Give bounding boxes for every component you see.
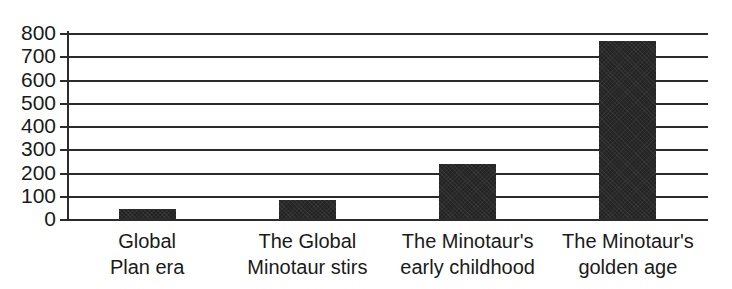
x-label-line: The Minotaur's [388,228,548,254]
gridline-800 [67,33,708,35]
x-label-line: Global [67,228,227,254]
y-tick-label-600: 600 [0,69,56,90]
y-tick-mark-300 [60,149,67,151]
y-tick-label-200: 200 [0,162,56,183]
y-tick-label-100: 100 [0,185,56,206]
x-label-line: Minotaur stirs [227,254,387,280]
x-label-line: golden age [548,254,708,280]
bar-4 [599,41,656,219]
y-tick-mark-600 [60,80,67,82]
y-tick-label-0: 0 [0,208,56,229]
y-axis-tick-labels: 8007006005004003002001000 [0,0,56,289]
bar-chart-figure: 8007006005004003002001000 GlobalPlan era… [0,0,732,289]
y-tick-label-700: 700 [0,45,56,66]
bar-1 [119,209,176,219]
y-tick-mark-100 [60,196,67,198]
x-axis-category-labels: GlobalPlan eraThe GlobalMinotaur stirsTh… [67,228,708,288]
gridline-0 [67,219,708,221]
y-tick-mark-700 [60,56,67,58]
x-label-4: The Minotaur'sgolden age [548,228,708,288]
y-tick-mark-800 [60,33,67,35]
y-tick-mark-400 [60,126,67,128]
x-label-line: Plan era [67,254,227,280]
bar-3 [439,164,496,219]
y-tick-label-500: 500 [0,92,56,113]
bar-2 [279,200,336,219]
y-tick-mark-500 [60,103,67,105]
x-label-3: The Minotaur'searly childhood [388,228,548,288]
x-label-line: The Global [227,228,387,254]
plot-area [67,33,708,219]
x-label-line: The Minotaur's [548,228,708,254]
x-label-1: GlobalPlan era [67,228,227,288]
y-tick-mark-0 [60,219,67,221]
y-tick-mark-200 [60,173,67,175]
y-tick-label-400: 400 [0,115,56,136]
y-tick-label-300: 300 [0,138,56,159]
x-label-line: early childhood [388,254,548,280]
x-label-2: The GlobalMinotaur stirs [227,228,387,288]
y-tick-label-800: 800 [0,22,56,43]
